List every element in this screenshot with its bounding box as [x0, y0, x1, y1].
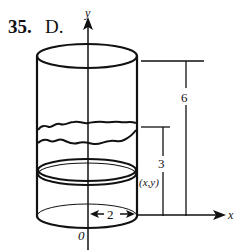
- water-surface: [38, 122, 136, 145]
- cylinder-top-ellipse: [37, 44, 137, 68]
- x-axis-label: x: [227, 208, 234, 222]
- cylinder: [37, 44, 137, 228]
- point-label: (x,y): [139, 176, 159, 189]
- height-label-3: 3: [158, 156, 165, 171]
- cylinder-diagram: 35. D. y 6 3 (x,y): [0, 0, 234, 251]
- y-axis-label: y: [84, 6, 91, 20]
- height-dimension-6: [141, 61, 204, 216]
- cylinder-bottom-front: [37, 216, 137, 228]
- height-label-6: 6: [181, 90, 188, 105]
- radius-label: 2: [107, 207, 114, 222]
- problem-number: 35.: [8, 16, 32, 37]
- disk-slice-ring: [38, 159, 136, 185]
- height-dimension-3: [141, 127, 170, 216]
- origin-label: 0: [78, 228, 85, 243]
- answer-letter: D.: [45, 16, 63, 37]
